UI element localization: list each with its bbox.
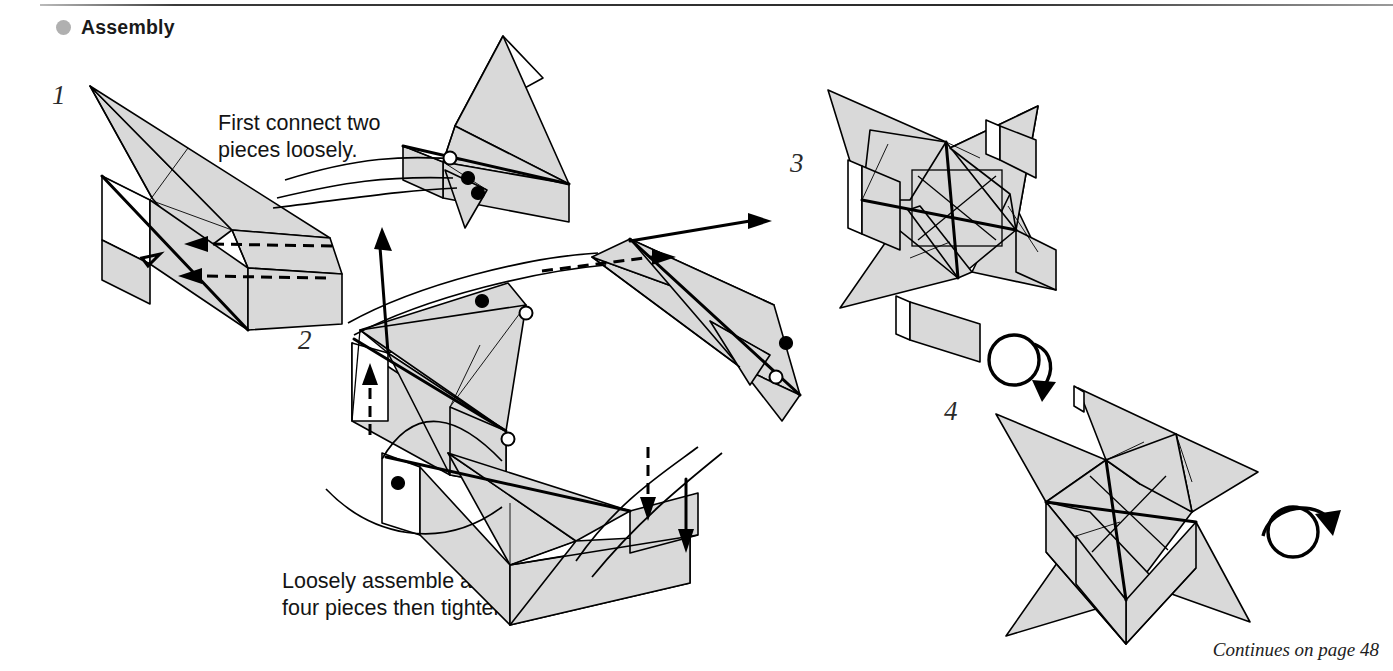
step-4-diagram xyxy=(980,372,1270,652)
step-2-module-bottom xyxy=(382,447,698,625)
bullet-icon xyxy=(56,20,71,35)
connection-marker-black xyxy=(780,337,793,350)
step-number-4: 4 xyxy=(944,396,958,427)
connection-marker-white xyxy=(502,433,515,446)
connection-marker-black xyxy=(462,172,475,185)
turn-over-arrow-2 xyxy=(1255,492,1365,572)
step-number-2: 2 xyxy=(298,325,312,356)
connection-marker-black xyxy=(392,477,405,490)
step-number-1: 1 xyxy=(52,80,66,111)
connection-marker-white xyxy=(770,371,783,384)
page-top-rule xyxy=(40,4,1393,6)
continues-note: Continues on page 48 xyxy=(1213,639,1379,661)
step-2-diagram xyxy=(330,235,830,635)
connection-marker-white xyxy=(520,307,533,320)
connection-marker-black xyxy=(472,187,485,200)
step-2-module-right xyxy=(542,213,800,421)
connection-marker-black xyxy=(476,295,489,308)
connection-marker-white xyxy=(444,152,457,165)
section-header: Assembly xyxy=(56,16,175,39)
step-2-module-left xyxy=(352,227,526,485)
step-1-left-module xyxy=(90,86,342,330)
page-title: Assembly xyxy=(81,16,175,39)
step-1-right-module xyxy=(395,30,695,260)
